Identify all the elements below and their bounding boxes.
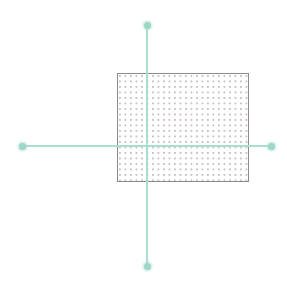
rectangle-shape[interactable]: [117, 73, 249, 182]
handle-bottom[interactable]: [144, 263, 151, 270]
handle-left[interactable]: [19, 143, 26, 150]
handle-right[interactable]: [268, 143, 275, 150]
drawing-canvas[interactable]: [0, 0, 287, 289]
handle-top[interactable]: [144, 22, 151, 29]
horizontal-guide-line[interactable]: [22, 145, 271, 147]
